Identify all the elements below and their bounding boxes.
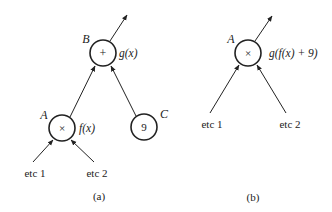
edge-b-etc1-a xyxy=(210,65,239,113)
node-a-symbol: × xyxy=(59,122,65,134)
node-a-annotation: f(x) xyxy=(79,122,95,135)
input-b-etc2-label: etc 2 xyxy=(279,118,300,130)
node-b-annotation: g(x) xyxy=(119,47,138,60)
edge-etc1-a xyxy=(33,140,53,162)
node-c-label: C xyxy=(160,107,169,121)
input-etc1-label: etc 1 xyxy=(24,167,45,179)
diagram-canvas: + B g(x) × A f(x) 9 C etc 1 etc 2 (a) xyxy=(0,0,332,212)
caption-b: (b) xyxy=(247,191,260,204)
node-b-label: B xyxy=(82,32,90,46)
node-a: × A f(x) xyxy=(39,108,95,141)
node-c-symbol: 9 xyxy=(141,121,147,133)
node-a-b-symbol: × xyxy=(245,47,251,59)
edge-a-b xyxy=(70,66,95,117)
node-a-b-label: A xyxy=(226,32,235,46)
node-a-label: A xyxy=(39,108,48,122)
node-a-b: × A g(f(x) + 9) xyxy=(226,32,317,66)
edge-c-b xyxy=(111,66,136,116)
edge-b-etc2-a xyxy=(257,65,286,113)
node-b-symbol: + xyxy=(100,46,107,60)
node-b: + B g(x) xyxy=(82,32,137,66)
diagram-a: + B g(x) × A f(x) 9 C etc 1 etc 2 (a) xyxy=(24,15,169,203)
node-c: 9 C xyxy=(131,107,169,140)
caption-a: (a) xyxy=(93,190,106,203)
edge-b-output xyxy=(110,15,127,41)
input-b-etc1-label: etc 1 xyxy=(201,118,222,130)
input-etc2-label: etc 2 xyxy=(86,167,107,179)
diagram-b: × A g(f(x) + 9) etc 1 etc 2 (b) xyxy=(201,16,317,204)
edge-a-output xyxy=(255,16,272,41)
edge-etc2-a xyxy=(71,140,94,162)
node-a-b-annotation: g(f(x) + 9) xyxy=(269,47,318,60)
